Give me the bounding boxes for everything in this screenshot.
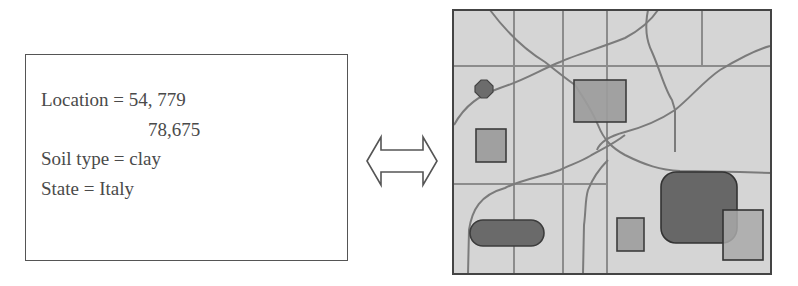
location-attribute-continued: 78,675	[41, 115, 200, 145]
attribute-text: Location = 54, 779 78,675 Soil type = cl…	[41, 85, 200, 203]
attribute-box: Location = 54, 779 78,675 Soil type = cl…	[25, 54, 348, 261]
location-attribute: Location = 54, 779	[41, 85, 200, 115]
light-area-feature	[723, 210, 763, 260]
building-feature-left	[476, 129, 506, 162]
map-view	[450, 8, 776, 278]
state-attribute: State = Italy	[41, 174, 200, 204]
point-feature-octagon	[475, 80, 493, 98]
building-feature-bottom	[617, 218, 644, 251]
soil-type-attribute: Soil type = clay	[41, 144, 200, 174]
pill-feature	[470, 220, 544, 246]
building-feature-upper	[574, 80, 626, 122]
double-headed-arrow-icon	[362, 132, 442, 190]
